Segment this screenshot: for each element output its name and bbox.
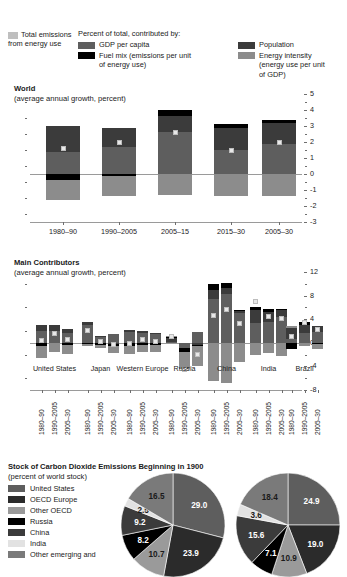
x-axis-period-label: 1980–90 [38,409,45,435]
pie-legend-label: United States [30,484,74,493]
x-axis-tick [172,390,173,393]
bar-segment-population [221,288,232,294]
y-axis-minor-tick [305,118,307,119]
legend-heading: Percent of total, contributed by: [78,29,180,38]
bar-segment-population [49,325,60,331]
bar-segment-fuel-mix [158,110,192,116]
legend-swatch-energy-intensity [238,52,255,59]
y-axis-minor-tick [25,166,27,167]
x-axis-line [30,390,302,391]
bar-group [46,94,80,222]
bar-segment-gdp-per-capita [158,132,192,174]
pie-legend-label: India [30,539,46,548]
x-axis-tick [175,222,176,225]
bar-segment-gdp-per-capita [312,332,323,343]
x-axis-tick [231,222,232,225]
x-axis-period-label: 2005–30 [152,409,159,435]
bar-segment-gdp-per-capita [262,144,296,174]
x-axis-tick [305,390,306,393]
bar-segment-gdp-per-capita [234,313,245,343]
x-axis-tick [292,390,293,393]
pie-legend-swatch [8,507,25,514]
x-axis-period-label: 1980–90 [126,409,133,435]
pie-section: Stock of Carbon Dioxide Emissions Beginn… [0,458,347,577]
group-label-united-states: United States [29,364,81,373]
x-axis-period-label: 1980–90 [210,409,217,435]
legend-label-gdp-per-capita: GDP per capita [99,40,149,49]
group-label-brazil: Brazil [279,364,331,373]
legend-swatch-fuel-mix [78,52,95,59]
total-emissions-marker [61,146,66,151]
pie-chart-left: 29.023.910.78.29.22.516.5 [120,472,226,577]
x-axis-line [30,222,302,223]
bar-segment-population [95,336,106,338]
total-emissions-marker [211,313,216,318]
pie-legend-swatch [8,485,25,492]
x-axis-period-label: 1990–2005 [181,402,188,435]
x-axis-tick [256,390,257,393]
x-axis-period-label: 1980–90 [168,409,175,435]
main-contributors-chart: Main Contributors (average annual growth… [0,258,347,458]
x-axis-tick [185,390,186,393]
y-axis-minor-tick [25,102,27,103]
total-emissions-marker [140,337,145,342]
bar-segment-energy-intensity [124,346,135,354]
pie-legend-label: Russia [30,517,53,526]
y-axis-tick-label: -3 [310,217,316,226]
x-axis-tick [227,390,228,393]
bar-segment-energy-intensity [208,343,219,381]
pie-right: 24.919.010.97.115.63.618.4 [235,472,341,577]
x-axis-tick [63,222,64,225]
x-axis-period-label: 1980–90 [288,409,295,435]
bar-segment-energy-intensity [46,180,80,199]
x-axis-tick [114,390,115,393]
pie-slice-value: 7.1 [265,549,277,558]
total-emissions-marker [289,334,294,339]
total-emissions-marker [237,321,242,326]
y-axis-minor-tick [305,150,307,151]
x-axis-tick [318,390,319,393]
bar-segment-population [250,310,261,322]
total-emissions-marker [117,140,122,145]
total-emissions-marker [277,140,282,145]
bar-segment-gdp-per-capita [250,323,261,343]
total-emissions-marker [279,316,284,321]
bar-segment-gdp-per-capita [221,294,232,343]
bar-segment-population [299,325,310,334]
pie-legend-label: Other OECD [30,506,72,515]
pie-legend-swatch [8,540,25,547]
bar-segment-energy-intensity [299,343,310,346]
bar-segment-energy-intensity [286,326,297,328]
bar-segment-energy-intensity [250,343,261,355]
pie-legend-item-other-emerging-and: Other emerging and [8,550,138,559]
y-axis-tick-label: 1 [310,153,314,162]
bar-segment-fuel-mix [234,310,245,311]
x-axis-label: 2015–30 [205,227,257,236]
bar-segment-energy-intensity [82,344,93,346]
total-emissions-marker [169,334,174,339]
bar-segment-population [208,290,219,299]
x-axis-tick [279,222,280,225]
chart-legend: Total emissions from energy use Percent … [0,14,347,76]
total-emissions-marker [229,148,234,153]
x-axis-period-label: 1990–2005 [97,402,104,435]
pie-legend-swatch [8,518,25,525]
y-axis-minor-tick [25,284,27,285]
bar-segment-gdp-per-capita [46,152,80,174]
bar-segment-gdp-per-capita [166,342,177,343]
x-axis-label: 1980–90 [37,227,89,236]
x-axis-period-label: 1990–2005 [265,402,272,435]
pie-slice-value: 10.9 [281,554,297,563]
y-axis-minor-tick [25,378,27,379]
total-emissions-marker [266,314,271,319]
legend-column-right: Population Energy intensity (energy use … [238,40,346,81]
bar-segment-energy-intensity [214,174,248,196]
x-axis-tick [198,390,199,393]
x-axis-period-label: 1990–2005 [223,402,230,435]
total-emissions-marker [111,342,116,347]
x-axis-tick [240,390,241,393]
world-plot-area: 543210-1-2-31980–901990–20052005–152015–… [0,84,347,234]
y-axis-minor-tick [25,134,27,135]
x-axis-tick [101,390,102,393]
x-axis-period-label: 2005–30 [278,409,285,435]
